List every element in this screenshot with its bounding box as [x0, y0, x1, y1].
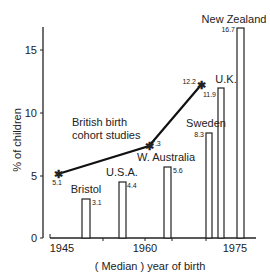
x-tick-1960: 1960 [133, 242, 157, 254]
line-value-1958: 7.3 [151, 140, 161, 147]
bar-w-australia [164, 167, 171, 238]
star-marker-icon: ✱ [197, 79, 206, 91]
bar-new-zealand [237, 28, 244, 238]
x-tick-1945: 1945 [50, 242, 74, 254]
bar-label-w-australia: W. Australia [137, 151, 196, 163]
bar-value-uk: 11.9 [203, 91, 216, 98]
chart: 15 10 5 0 1945 1960 1975 ( Median ) year… [0, 0, 270, 278]
x-tick-1975: 1975 [223, 242, 247, 254]
y-tick-5: 5 [31, 170, 37, 182]
bar-sweden [206, 133, 212, 238]
y-tick-10: 10 [25, 107, 37, 119]
bar-usa [119, 182, 126, 238]
y-tick-15: 15 [25, 44, 37, 56]
x-ticks: 1945 1960 1975 [50, 238, 247, 254]
bar-value-w-australia: 5.6 [173, 167, 183, 174]
bar-label-usa: U.S.A. [106, 166, 138, 178]
y-tick-0: 0 [31, 232, 37, 244]
bar-label-sweden: Sweden [186, 117, 226, 129]
annotation-line2: cohort studies [72, 129, 141, 141]
bar-label-bristol: Bristol [71, 183, 102, 195]
bar-value-new-zealand: 16.7 [221, 26, 235, 33]
bar-label-uk: U.K. [215, 73, 236, 85]
y-ticks: 15 10 5 0 [25, 44, 43, 244]
bar-value-usa: 4.4 [127, 182, 137, 189]
bar-label-new-zealand: New Zealand [202, 13, 267, 25]
bar-value-sweden: 8.3 [194, 131, 204, 138]
line-value-1970: 12.2 [182, 78, 196, 85]
x-axis-label: ( Median ) year of birth [95, 260, 206, 272]
y-axis-label: % of children [11, 108, 23, 172]
bar-value-bristol: 3.1 [92, 199, 102, 206]
bar-bristol [82, 199, 90, 238]
annotation-line1: British birth [72, 116, 127, 128]
bar-uk [218, 88, 224, 238]
line-value-1946: 5.1 [52, 179, 62, 186]
